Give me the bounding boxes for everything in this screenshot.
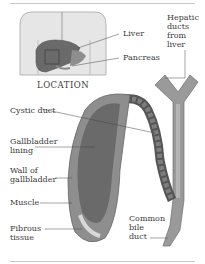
inset-caption: LOCATION (37, 80, 89, 90)
cystic-duct (120, 99, 172, 200)
label-gallbladder-lining: Gallbladder lining (10, 137, 58, 155)
label-hepatic-ducts: Hepatic ducts from liver (167, 13, 199, 49)
label-wall-of-gallbladder: Wall of gallbladder (10, 166, 56, 184)
label-muscle: Muscle (10, 198, 39, 207)
label-pancreas: Pancreas (123, 53, 160, 62)
label-fibrous-tissue: Fibrous tissue (10, 224, 41, 242)
torso-inset (20, 12, 119, 75)
label-cystic-duct: Cystic duct (10, 106, 56, 115)
gallbladder (68, 94, 130, 242)
label-liver: Liver (123, 29, 144, 38)
label-common-bile-duct: Common bile duct (129, 214, 165, 241)
